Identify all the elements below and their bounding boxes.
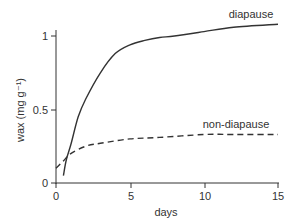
wax-over-days-chart: 0 0.5 1 0 5 10 15 days wax (mg g⁻¹) diap… <box>0 0 299 223</box>
x-axis-title: days <box>154 206 178 218</box>
x-axis: 0 5 10 15 <box>53 183 284 202</box>
x-tick-label-0: 0 <box>53 190 59 202</box>
y-tick-label-1: 1 <box>42 30 48 42</box>
x-tick-label-5: 5 <box>128 190 134 202</box>
x-tick-label-10: 10 <box>199 190 211 202</box>
y-tick-label-0: 0 <box>42 177 48 189</box>
series-non-diapause-line <box>56 134 278 168</box>
series-label-non-diapause: non-diapause <box>203 118 270 130</box>
y-tick-label-0.5: 0.5 <box>33 104 48 116</box>
y-axis-title: wax (mg g⁻¹) <box>14 78 26 143</box>
series-label-diapause: diapause <box>229 8 274 20</box>
series-diapause-line <box>63 24 278 176</box>
y-axis: 0 0.5 1 <box>33 30 56 189</box>
x-tick-label-15: 15 <box>272 190 284 202</box>
